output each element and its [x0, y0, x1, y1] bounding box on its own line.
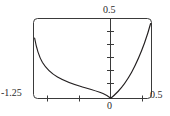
x-min-label: -1.25: [1, 88, 22, 98]
plot-canvas: [0, 0, 170, 116]
plot-frame: [34, 19, 152, 99]
x-max-label: 0.5: [150, 90, 163, 100]
y-max-label: 0.5: [103, 5, 116, 15]
origin-label: 0: [107, 101, 112, 111]
plot-figure: 0.5 -1.25 0 0.5: [0, 0, 170, 116]
curve-path: [35, 24, 151, 99]
